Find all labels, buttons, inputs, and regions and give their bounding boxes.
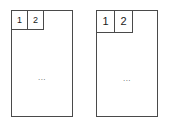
diagram-figure-right: 1 2 ... bbox=[96, 10, 158, 117]
cell-1-right[interactable]: 1 bbox=[96, 10, 115, 33]
ellipsis-left: ... bbox=[12, 74, 72, 82]
ellipsis-right: ... bbox=[97, 75, 157, 83]
cell-row-left: 1 2 bbox=[11, 10, 44, 30]
diagram-canvas: 1 2 ... 1 2 ... bbox=[0, 0, 170, 127]
diagram-figure-left: 1 2 ... bbox=[11, 10, 73, 117]
cell-row-right: 1 2 bbox=[96, 10, 133, 33]
cell-2-left[interactable]: 2 bbox=[27, 10, 44, 30]
cell-2-right[interactable]: 2 bbox=[114, 10, 133, 33]
cell-1-left[interactable]: 1 bbox=[11, 10, 28, 30]
